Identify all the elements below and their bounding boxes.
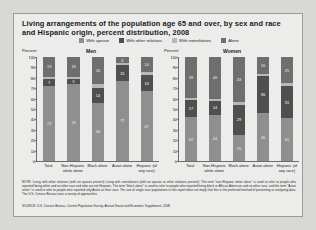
y-tick-mark: [177, 140, 179, 141]
x-category-label: Total: [178, 164, 202, 178]
figure-card: Living arrangements of the population ag…: [13, 13, 303, 217]
x-axis-labels-women: TotalNon-Hispanic white aloneBlack alone…: [178, 164, 299, 178]
bar-segment: 41: [281, 118, 294, 161]
page-title: Living arrangements of the population ag…: [22, 19, 296, 37]
plot-area-men: 197721957426145661577141667 100908070605…: [36, 57, 159, 162]
y-tick-mark: [177, 130, 179, 131]
bar-segment: 40: [209, 57, 222, 99]
x-axis-labels-men: TotalNon-Hispanic white aloneBlack alone…: [36, 164, 159, 178]
legend-label: With spouse: [86, 38, 109, 43]
legend-item-1: With other relatives: [119, 38, 162, 43]
legend-item-3: Alone: [221, 38, 239, 43]
x-category-label: Black alone: [85, 164, 110, 178]
y-tick-mark: [35, 78, 37, 79]
bar-segment: 72: [43, 86, 56, 161]
bar-segment: 46: [257, 113, 270, 161]
bar-segment: 29: [233, 105, 246, 135]
y-tick-mark: [177, 99, 179, 100]
bar-segment: 14: [92, 88, 105, 103]
bars-men: 197721957426145661577141667: [37, 57, 159, 161]
x-category-label: Black alone: [226, 164, 250, 178]
bar-segment: 19: [43, 57, 56, 77]
y-tick-mark: [177, 109, 179, 110]
y-tick-mark: [177, 78, 179, 79]
bar-segment: 7: [43, 79, 56, 86]
bar-segment: 67: [141, 91, 154, 161]
x-category-label: Non-Hispanic white alone: [202, 164, 226, 178]
x-category-label: Total: [36, 164, 61, 178]
bar-segment: 16: [141, 75, 154, 92]
bar-segment: 42: [185, 117, 198, 161]
y-tick-mark: [35, 161, 37, 162]
y-tick-mark: [35, 119, 37, 120]
bar-segment: 39: [185, 57, 198, 98]
bar-black-alone: 432925: [233, 57, 246, 161]
legend-swatch-icon: [79, 38, 84, 43]
legend-swatch-icon: [172, 38, 177, 43]
bar-segment: 26: [92, 57, 105, 84]
y-tick-mark: [177, 161, 179, 162]
panel-men: Percent Men 197721957426145661577141667 …: [21, 48, 161, 178]
bar-segment: 15: [116, 65, 129, 81]
bar-segment: 77: [116, 81, 129, 161]
y-tick-mark: [35, 67, 37, 68]
bars-women: 391742401444432925163646253141: [179, 57, 299, 161]
bar-segment: 25: [281, 57, 294, 83]
legend-label: With nonrelatives: [179, 38, 211, 43]
y-tick-mark: [35, 109, 37, 110]
x-category-label: Asian alone: [110, 164, 135, 178]
figure-note: NOTE: Living with other relatives (with …: [22, 181, 296, 197]
bar-hispanic-of-any-race: 141667: [141, 57, 154, 161]
bar-segment: 56: [92, 103, 105, 161]
bar-segment: 16: [257, 57, 270, 74]
bar-non-hispanic-white-alone: 19574: [67, 57, 80, 161]
bar-segment: 44: [209, 115, 222, 161]
bar-segment: 36: [257, 76, 270, 113]
legend-label: Alone: [228, 38, 239, 43]
figure-source: SOURCE: U.S. Census Bureau, Current Popu…: [22, 205, 296, 209]
bar-asian-alone: 163646: [257, 57, 270, 161]
bar-black-alone: 261456: [92, 57, 105, 161]
bar-segment: 17: [185, 100, 198, 118]
y-tick-mark: [35, 99, 37, 100]
y-tick-mark: [177, 119, 179, 120]
y-tick-mark: [177, 88, 179, 89]
panel-title-women: Women: [163, 48, 301, 54]
bar-total: 19772: [43, 57, 56, 161]
legend-item-2: With nonrelatives: [172, 38, 211, 43]
bar-segment: 14: [141, 57, 154, 72]
x-category-label: Asian alone: [251, 164, 275, 178]
bar-segment: 74: [67, 84, 80, 161]
legend-swatch-icon: [119, 38, 124, 43]
legend-item-0: With spouse: [79, 38, 109, 43]
x-category-label: Hispanic (of any race): [134, 164, 159, 178]
x-category-label: Non-Hispanic white alone: [61, 164, 86, 178]
plot-area-women: 391742401444432925163646253141 100908070…: [178, 57, 299, 162]
y-tick-mark: [35, 140, 37, 141]
y-tick-mark: [177, 67, 179, 68]
x-category-label: Hispanic (of any race): [275, 164, 299, 178]
y-tick-mark: [35, 130, 37, 131]
bar-segment: 43: [233, 57, 246, 102]
panel-women: Percent Women 39174240144443292516364625…: [163, 48, 301, 178]
bar-hispanic-of-any-race: 253141: [281, 57, 294, 161]
y-tick-mark: [35, 57, 37, 58]
bar-segment: 19: [67, 57, 80, 77]
legend-swatch-icon: [221, 38, 226, 43]
bar-non-hispanic-white-alone: 401444: [209, 57, 222, 161]
figure-page: Living arrangements of the population ag…: [0, 0, 316, 230]
y-tick-mark: [35, 88, 37, 89]
bar-segment: 14: [209, 101, 222, 116]
panel-title-men: Men: [21, 48, 161, 54]
bar-segment: 25: [233, 135, 246, 161]
chart-legend: With spouseWith other relativesWith nonr…: [14, 38, 304, 43]
y-tick-mark: [177, 57, 179, 58]
bar-total: 391742: [185, 57, 198, 161]
y-tick-mark: [177, 151, 179, 152]
y-tick-mark: [35, 151, 37, 152]
bar-segment: 31: [281, 86, 294, 118]
legend-label: With other relatives: [126, 38, 162, 43]
bar-asian-alone: 61577: [116, 57, 129, 161]
